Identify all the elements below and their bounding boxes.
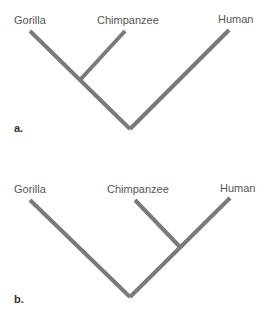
branch-human-a: [130, 30, 229, 129]
panel-tag-a: a.: [14, 123, 23, 134]
taxon-label-gorilla-b: Gorilla: [14, 184, 46, 195]
taxon-label-gorilla-a: Gorilla: [14, 15, 46, 26]
taxon-label-human-b: Human: [220, 183, 255, 194]
cladogram-b: [0, 157, 267, 315]
branch-gorilla-b: [30, 200, 130, 297]
branch-chimpanzee-b: [135, 200, 180, 247]
taxon-label-chimpanzee-b: Chimpanzee: [107, 184, 169, 195]
taxon-label-human-a: Human: [218, 14, 253, 25]
tree-panel-b: Gorilla Chimpanzee Human b.: [0, 157, 267, 315]
branch-chimpanzee-a: [80, 31, 125, 80]
tree-panel-a: Gorilla Chimpanzee Human a.: [0, 0, 267, 157]
panel-tag-b: b.: [14, 294, 24, 305]
taxon-label-chimpanzee-a: Chimpanzee: [97, 15, 159, 26]
